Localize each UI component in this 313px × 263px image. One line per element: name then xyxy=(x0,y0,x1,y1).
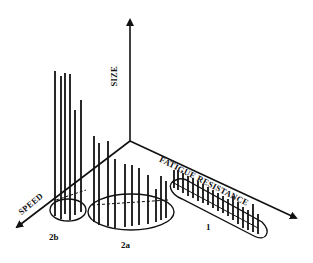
cluster-outlines xyxy=(50,179,267,238)
cluster-1-label: 1 xyxy=(206,223,211,232)
size-axis-label: SIZE xyxy=(110,66,119,87)
cluster-2b-label: 2b xyxy=(49,233,59,242)
cluster-2a-label: 2a xyxy=(121,241,130,250)
diagram-canvas xyxy=(0,0,313,263)
muscle-fiber-diagram: SIZE FATIGUE RESISTANCE SPEED 2b 2a 1 xyxy=(0,0,313,263)
speed-axis xyxy=(17,141,130,227)
